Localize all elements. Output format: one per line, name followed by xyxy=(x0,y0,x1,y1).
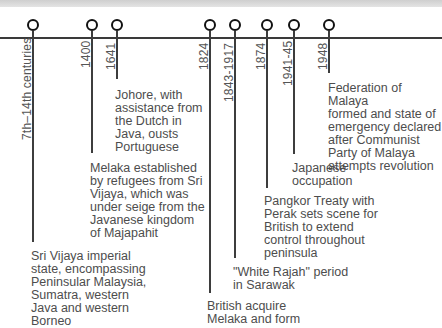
event-description: Melaka established by refugees from Sri … xyxy=(90,162,205,240)
timeline-node-icon xyxy=(204,19,216,31)
event-description: British acquire Melaka and form xyxy=(207,300,300,326)
timeline-node-icon xyxy=(111,19,123,31)
timeline-stem xyxy=(209,31,211,293)
timeline-node-icon xyxy=(86,19,98,31)
event-date: 1641 xyxy=(105,43,117,71)
timeline-node-icon xyxy=(261,19,273,31)
event-date: 1941-45 xyxy=(282,41,294,86)
event-date: 7th–14th centuries xyxy=(21,38,33,140)
event-description: "White Rajah" period in Sarawak xyxy=(233,266,348,292)
event-description: Pangkor Treaty with Perak sets scene for… xyxy=(264,195,378,260)
event-date: 1874 xyxy=(255,43,267,71)
timeline-axis xyxy=(0,37,442,39)
timeline-node-icon xyxy=(27,19,39,31)
top-band xyxy=(0,0,442,7)
timeline-node-icon xyxy=(323,19,335,31)
timeline-node-icon xyxy=(288,19,300,31)
timeline-node-icon xyxy=(229,19,241,31)
event-date: 1843-1917 xyxy=(223,43,235,102)
event-description: Johore, with assistance from the Dutch i… xyxy=(115,89,203,154)
event-date: 1948 xyxy=(317,43,329,71)
event-date: 1824 xyxy=(198,43,210,71)
event-description: Sri Vijaya imperial state, encompassing … xyxy=(31,250,146,328)
event-description: Federation of Malaya formed and state of… xyxy=(328,82,442,173)
event-date: 1400 xyxy=(80,41,92,69)
